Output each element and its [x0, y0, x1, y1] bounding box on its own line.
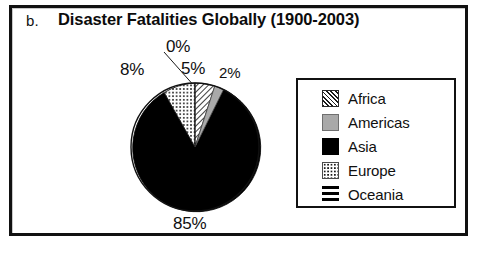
legend-item-oceania: Oceania [322, 184, 410, 205]
legend-item-asia: Asia [322, 136, 410, 157]
slice-label-americas: 2% [219, 64, 240, 81]
legend-item-europe: Europe [322, 160, 410, 181]
legend-list: Africa Americas Asia Europe Oceania [322, 88, 410, 205]
pie-chart [128, 80, 262, 214]
pie-svg [128, 80, 262, 214]
legend-swatch-europe-icon [322, 162, 339, 179]
slice-label-oceania: 0% [166, 37, 190, 57]
legend-swatch-oceania-icon [322, 186, 339, 203]
legend-label-oceania: Oceania [348, 187, 403, 202]
legend-swatch-americas-icon [322, 114, 339, 131]
figure-panel: b. Disaster Fatalities Globally (1900-20… [0, 0, 482, 256]
panel-letter: b. [26, 12, 39, 29]
legend-item-africa: Africa [322, 88, 410, 109]
legend-swatch-africa-icon [322, 90, 339, 107]
slice-label-asia: 85% [173, 214, 206, 234]
slice-label-europe: 8% [120, 60, 144, 80]
slice-label-africa: 5% [181, 59, 205, 79]
legend-label-americas: Americas [348, 115, 410, 130]
legend-label-asia: Asia [348, 139, 377, 154]
legend-swatch-asia-icon [322, 138, 339, 155]
legend: Africa Americas Asia Europe Oceania [296, 78, 456, 208]
legend-item-americas: Americas [322, 112, 410, 133]
chart-title: Disaster Fatalities Globally (1900-2003) [58, 10, 359, 29]
legend-label-europe: Europe [348, 163, 396, 178]
legend-label-africa: Africa [348, 91, 386, 106]
